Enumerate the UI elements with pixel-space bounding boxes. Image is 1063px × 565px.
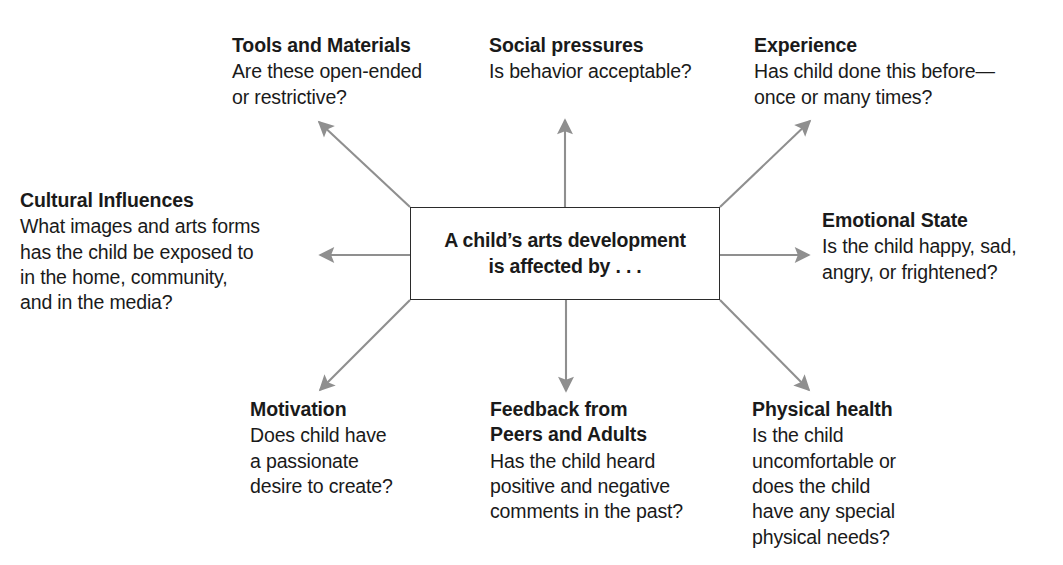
node-title-physical-health: Physical health	[752, 397, 967, 422]
node-title-emotional-state: Emotional State	[822, 208, 1047, 233]
node-title-tools-and-materials: Tools and Materials	[232, 33, 457, 58]
node-body-tools-and-materials: Are these open-ended or restrictive?	[232, 59, 457, 110]
node-body-cultural-influences: What images and arts forms has the child…	[20, 214, 310, 315]
node-tools-and-materials: Tools and Materials Are these open-ended…	[232, 33, 457, 110]
node-body-physical-health: Is the child uncomfortable or does the c…	[752, 423, 967, 550]
node-social-pressures: Social pressures Is behavior acceptable?	[489, 33, 714, 85]
node-title-feedback-from-peers-and-adults: Feedback from Peers and Adults	[490, 397, 715, 448]
arrow-to-motivation	[320, 300, 410, 390]
node-title-motivation: Motivation	[250, 397, 465, 422]
center-box: A child’s arts development is affected b…	[410, 207, 720, 300]
node-body-emotional-state: Is the child happy, sad, angry, or frigh…	[822, 234, 1047, 285]
arrow-to-physical-health	[720, 300, 809, 390]
node-title-cultural-influences: Cultural Influences	[20, 188, 310, 213]
node-cultural-influences: Cultural Influences What images and arts…	[20, 188, 310, 316]
node-title-social-pressures: Social pressures	[489, 33, 714, 58]
node-body-social-pressures: Is behavior acceptable?	[489, 59, 714, 84]
center-box-text: A child’s arts development is affected b…	[444, 228, 686, 279]
diagram-canvas: A child’s arts development is affected b…	[0, 0, 1063, 565]
node-feedback-from-peers-and-adults: Feedback from Peers and Adults Has the c…	[490, 397, 715, 525]
node-title-experience: Experience	[754, 33, 999, 58]
node-emotional-state: Emotional State Is the child happy, sad,…	[822, 208, 1047, 285]
node-body-motivation: Does child have a passionate desire to c…	[250, 423, 465, 499]
arrow-to-experience	[720, 121, 810, 207]
node-experience: Experience Has child done this before— o…	[754, 33, 999, 110]
node-physical-health: Physical health Is the child uncomfortab…	[752, 397, 967, 550]
node-motivation: Motivation Does child have a passionate …	[250, 397, 465, 499]
node-body-experience: Has child done this before— once or many…	[754, 59, 999, 110]
arrow-to-tools-and-materials	[319, 122, 410, 207]
node-body-feedback-from-peers-and-adults: Has the child heard positive and negativ…	[490, 449, 715, 525]
